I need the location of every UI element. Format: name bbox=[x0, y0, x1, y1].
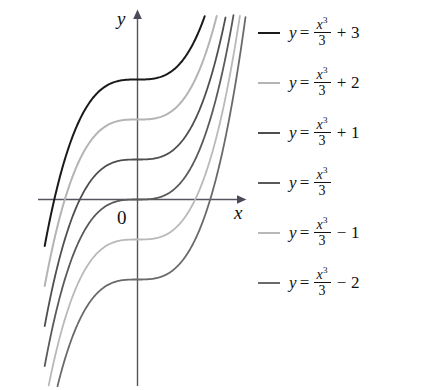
equals-sign: = bbox=[299, 23, 313, 43]
fraction-denominator: 3 bbox=[319, 233, 326, 248]
legend-equation: y=x33+ 2 bbox=[289, 67, 360, 100]
curve-canvas bbox=[0, 0, 260, 390]
equation-lhs: y bbox=[289, 73, 299, 93]
y-axis-label: y bbox=[117, 8, 125, 30]
axes bbox=[38, 18, 238, 386]
curve-c--2 bbox=[58, 17, 246, 386]
fraction-numerator: x3 bbox=[314, 116, 331, 133]
legend-item-2[interactable]: y=x33+ 1 bbox=[258, 122, 360, 144]
fraction-denominator: 3 bbox=[319, 133, 326, 148]
fraction: x33 bbox=[314, 266, 331, 299]
equals-sign: = bbox=[299, 273, 313, 293]
equation-lhs: y bbox=[289, 123, 299, 143]
exponent: 3 bbox=[323, 215, 328, 225]
fraction: x33 bbox=[314, 216, 331, 249]
legend-swatch-icon bbox=[258, 132, 280, 134]
fraction-denominator: 3 bbox=[319, 83, 326, 98]
equation-lhs: y bbox=[289, 223, 299, 243]
equation-constant-term: + 3 bbox=[332, 23, 360, 43]
fraction-numerator: x3 bbox=[314, 216, 331, 233]
curve-group bbox=[45, 15, 246, 386]
legend: y=x33+ 3y=x33+ 2y=x33+ 1y=x33y=x33− 1y=x… bbox=[258, 0, 422, 390]
legend-swatch-icon bbox=[258, 32, 280, 34]
legend-equation: y=x33− 2 bbox=[289, 267, 360, 300]
legend-equation: y=x33 bbox=[289, 167, 332, 200]
fraction-numerator: x3 bbox=[314, 166, 331, 183]
equation-constant-term: + 1 bbox=[332, 123, 360, 143]
legend-equation: y=x33− 1 bbox=[289, 217, 360, 250]
fraction-denominator: 3 bbox=[319, 283, 326, 298]
fraction-numerator: x3 bbox=[314, 66, 331, 83]
legend-swatch-icon bbox=[258, 232, 280, 234]
equation-lhs: y bbox=[289, 23, 299, 43]
plot-area: y x 0 bbox=[0, 0, 260, 390]
equals-sign: = bbox=[299, 73, 313, 93]
legend-item-1[interactable]: y=x33+ 2 bbox=[258, 72, 360, 94]
legend-item-3[interactable]: y=x33 bbox=[258, 172, 332, 194]
legend-item-0[interactable]: y=x33+ 3 bbox=[258, 22, 360, 44]
exponent: 3 bbox=[323, 265, 328, 275]
equation-lhs: y bbox=[289, 173, 299, 193]
fraction: x33 bbox=[314, 166, 331, 199]
x-axis-label: x bbox=[234, 202, 242, 224]
legend-swatch-icon bbox=[258, 282, 280, 284]
equation-constant-term: + 2 bbox=[332, 73, 360, 93]
fraction-denominator: 3 bbox=[319, 183, 326, 198]
equals-sign: = bbox=[299, 173, 313, 193]
legend-swatch-icon bbox=[258, 182, 280, 184]
figure: y x 0 y=x33+ 3y=x33+ 2y=x33+ 1y=x33y=x33… bbox=[0, 0, 422, 390]
exponent: 3 bbox=[323, 65, 328, 75]
legend-item-5[interactable]: y=x33− 2 bbox=[258, 272, 360, 294]
fraction-numerator: x3 bbox=[314, 16, 331, 33]
origin-label: 0 bbox=[117, 207, 127, 229]
fraction-numerator: x3 bbox=[314, 266, 331, 283]
equation-constant-term: − 1 bbox=[332, 223, 360, 243]
exponent: 3 bbox=[323, 15, 328, 25]
fraction-denominator: 3 bbox=[319, 33, 326, 48]
exponent: 3 bbox=[323, 115, 328, 125]
exponent: 3 bbox=[323, 165, 328, 175]
curve-c-2 bbox=[45, 16, 217, 286]
fraction: x33 bbox=[314, 116, 331, 149]
curve-c--1 bbox=[49, 16, 240, 386]
equation-constant-term: − 2 bbox=[332, 273, 360, 293]
equals-sign: = bbox=[299, 223, 313, 243]
fraction: x33 bbox=[314, 16, 331, 49]
legend-equation: y=x33+ 1 bbox=[289, 117, 360, 150]
equation-lhs: y bbox=[289, 273, 299, 293]
legend-item-4[interactable]: y=x33− 1 bbox=[258, 222, 360, 244]
legend-swatch-icon bbox=[258, 82, 280, 84]
fraction: x33 bbox=[314, 66, 331, 99]
curve-c-0 bbox=[45, 15, 234, 366]
legend-equation: y=x33+ 3 bbox=[289, 17, 360, 50]
equals-sign: = bbox=[299, 123, 313, 143]
